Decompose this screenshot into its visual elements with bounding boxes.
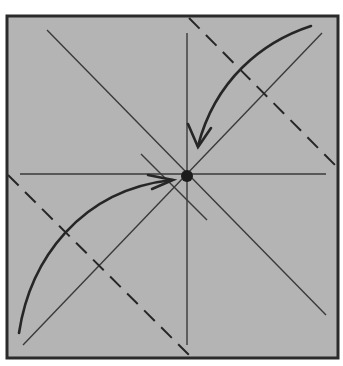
center-dot [181, 170, 193, 182]
fold-diagram: Origami fold step: fold two opposite cor… [0, 0, 343, 366]
